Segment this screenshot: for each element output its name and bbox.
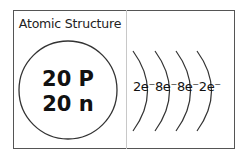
shell-label-3: 8e⁻	[177, 79, 199, 94]
electron-shells: 2e⁻8e⁻8e⁻2e⁻	[133, 79, 221, 94]
shell-label-1: 2e⁻	[133, 79, 155, 94]
shell-label-2: 8e⁻	[155, 79, 177, 94]
shell-label-4: 2e⁻	[199, 79, 221, 94]
nucleus-label: 20 P 20 n	[19, 67, 117, 117]
proton-count: 20 P	[19, 67, 117, 92]
neutron-count: 20 n	[19, 92, 117, 117]
